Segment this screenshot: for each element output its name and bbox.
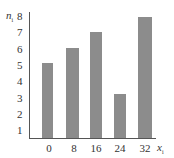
bar-chart: ni 12345678 08162432 xi [0,0,174,158]
x-tick-label: 0 [46,143,52,154]
y-tick-label: 3 [17,93,23,104]
y-axis-label: ni [6,9,13,23]
y-tick-label: 2 [17,109,23,120]
y-tick-label: 1 [17,125,23,136]
x-axis-line [29,138,156,139]
x-tick-label: 8 [71,143,77,154]
bar [66,48,79,138]
y-axis-line [29,12,30,139]
bar [42,63,53,138]
bar [138,17,152,138]
x-tick-label: 16 [91,143,102,154]
y-tick-label: 8 [17,11,23,22]
y-tick-label: 5 [17,60,23,71]
bar [114,94,126,138]
y-tick-label: 7 [17,27,23,38]
y-tick-label: 4 [17,76,23,87]
x-axis-label: xi [157,141,164,155]
y-tick-label: 6 [17,44,23,55]
x-tick-label: 24 [115,143,126,154]
bar [90,32,102,138]
x-tick-label: 32 [140,143,151,154]
